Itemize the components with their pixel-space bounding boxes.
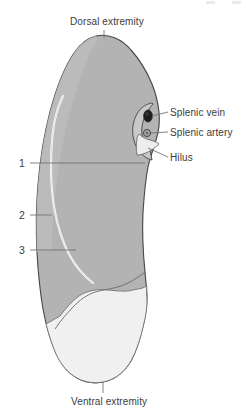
callout-number-2: 2 <box>19 209 25 221</box>
spleen-figure: Dorsal extremity Ventral extremity Splen… <box>0 0 246 416</box>
splenic-vein-lumen-highlight <box>146 112 149 116</box>
callout-number-3: 3 <box>19 244 25 256</box>
label-hilus: Hilus <box>170 152 193 164</box>
splenic-artery-lumen <box>146 132 149 135</box>
label-ventral-extremity: Ventral extremity <box>71 396 147 408</box>
label-dorsal-extremity: Dorsal extremity <box>70 16 144 28</box>
spleen-illustration <box>0 0 246 416</box>
splenic-vein-vessel <box>144 110 153 122</box>
label-splenic-artery: Splenic artery <box>170 127 233 139</box>
callout-number-1: 1 <box>19 157 25 169</box>
label-splenic-vein: Splenic vein <box>170 107 225 119</box>
